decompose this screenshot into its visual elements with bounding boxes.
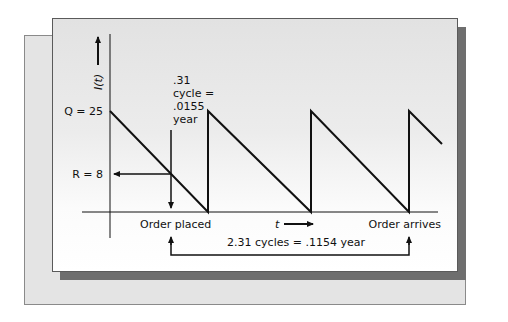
order-quantity-label: Q = 25 [64,105,103,118]
reorder-point-label: R = 8 [72,168,103,181]
x-axis-label: t [275,218,280,231]
order-arrives-label: Order arrives [369,218,442,231]
lead-time-note-line: .0155 [173,100,205,113]
order-placed-label: Order placed [140,218,211,231]
lead-time-note: .31 cycle = .0155 year [173,74,218,126]
lead-time-note-line: .31 [173,74,191,87]
y-axis-label: I(t) [92,74,105,90]
lead-time-label: 2.31 cycles = .1154 year [227,236,365,249]
inventory-diagram: I(t) Q = 25 R = 8 .31 cycle = .0155 year… [0,0,508,322]
lead-time-note-line: year [173,113,198,126]
inventory-level-line [110,111,442,212]
lead-time-note-line: cycle = [173,87,214,100]
